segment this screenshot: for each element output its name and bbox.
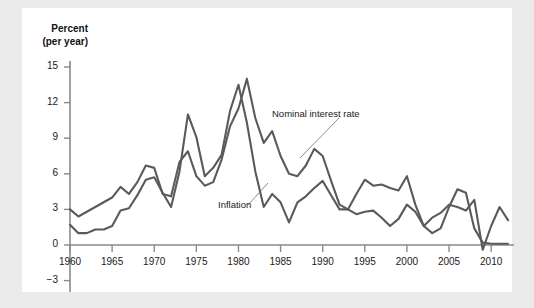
x-tick-label: 1960 <box>50 256 90 267</box>
x-tick-label: 1995 <box>345 256 385 267</box>
y-tick-label: 15 <box>32 60 58 71</box>
inflation-series-label: Inflation <box>218 199 251 210</box>
y-tick-label: 3 <box>32 202 58 213</box>
x-tick-label: 2010 <box>471 256 511 267</box>
y-tick-label: 0 <box>32 238 58 249</box>
x-tick-label: 1985 <box>261 256 301 267</box>
x-tick-label: 2005 <box>429 256 469 267</box>
y-tick-label: 6 <box>32 167 58 178</box>
chart-figure: Percent (per year) 15129630−319601965197… <box>0 0 534 308</box>
x-tick-label: 1970 <box>134 256 174 267</box>
nominal-interest-rate-label: Nominal interest rate <box>272 108 360 119</box>
x-tick-label: 1990 <box>303 256 343 267</box>
x-tick-label: 1980 <box>218 256 258 267</box>
y-tick-label: −3 <box>32 274 58 285</box>
x-tick-label: 2000 <box>387 256 427 267</box>
x-tick-label: 1975 <box>176 256 216 267</box>
series-line-nominal-interest-rate <box>70 79 508 244</box>
x-tick-label: 1965 <box>92 256 132 267</box>
y-tick-label: 12 <box>32 96 58 107</box>
y-tick-label: 9 <box>32 131 58 142</box>
